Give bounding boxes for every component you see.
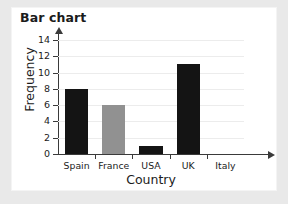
x-tick-mark [95,155,96,159]
y-axis-line [58,33,59,154]
x-axis-line [58,154,270,155]
y-tick-label: 6 [44,100,50,110]
x-tick-mark [170,155,171,159]
chart-figure: Bar chart Frequency Country 02468101214S… [0,0,288,204]
bar [102,105,125,154]
x-tick-label: Spain [58,160,95,171]
y-tick-mark [53,154,58,155]
gridline [58,40,244,41]
y-tick-label: 14 [38,35,50,45]
y-tick-label: 4 [44,116,50,126]
y-tick-mark [53,105,58,106]
x-tick-mark [207,155,208,159]
plot-area: Frequency Country 02468101214SpainFrance… [0,0,288,204]
x-axis-title: Country [58,172,244,187]
bar [177,64,200,154]
y-tick-mark [53,73,58,74]
y-tick-mark [53,56,58,57]
x-tick-label: Italy [207,160,244,171]
y-tick-label: 12 [38,51,50,61]
gridline [58,56,244,57]
x-tick-label: France [95,160,132,171]
y-tick-mark [53,89,58,90]
bar [139,146,162,154]
y-tick-mark [53,138,58,139]
x-axis-arrow-icon [268,151,275,159]
y-tick-label: 0 [44,149,50,159]
gridline [58,73,244,74]
y-tick-label: 8 [44,84,50,94]
bar [65,89,88,154]
x-tick-mark [132,155,133,159]
x-tick-label: UK [170,160,207,171]
y-tick-mark [53,121,58,122]
y-tick-label: 10 [38,68,50,78]
x-tick-label: USA [132,160,169,171]
y-axis-arrow-icon [55,27,63,34]
y-tick-label: 2 [44,133,50,143]
y-axis-title: Frequency [22,25,37,135]
y-tick-mark [53,40,58,41]
